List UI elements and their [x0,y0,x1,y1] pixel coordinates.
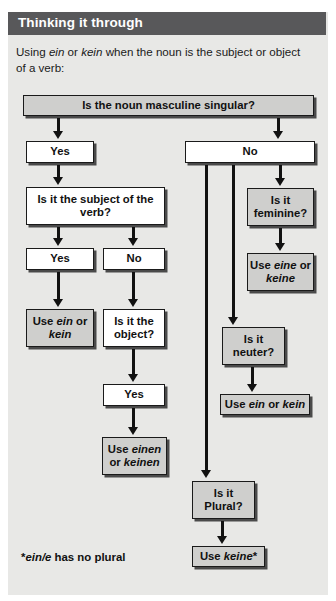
connector-yessubject-to-useein [57,272,60,302]
intro-text: Using ein or kein when the noun is the s… [16,44,306,75]
arrowhead-feminine-to-useeine [275,243,285,251]
arrowhead-no-to-feminine [275,178,285,186]
intro-part-2: or [64,45,81,58]
arrowhead-yes-to-subject [53,177,63,185]
node-use-eine-keine-label: Use eine or keine [248,259,313,286]
page-title: Thinking it through [18,15,143,30]
footnote-rest: has no plural [51,551,125,563]
arrowhead-no-to-plural [201,470,211,478]
arrowhead-subject-to-no [128,238,138,246]
node-no-subject: No [103,248,165,270]
intro-part-1: Using [16,45,49,58]
node-neuter-question-label: Is it neuter? [223,333,284,360]
node-use-einen-keinen: Use einen or keinen [102,437,167,475]
node-use-einen-keinen-label: Use einen or keinen [103,443,166,470]
node-object-question: Is it the object? [103,309,165,347]
footnote-em: ein/e [25,551,51,563]
node-yes-masculine-label: Yes [48,145,71,159]
node-root-question: Is the noun masculine singular? [23,95,314,116]
node-plural-question-label: Is it Plural? [193,487,254,514]
arrowhead-root-to-no [273,131,283,139]
connector-object-to-yes [132,349,135,377]
node-object-question-label: Is it the object? [104,315,164,342]
node-yes-object-label: Yes [122,388,145,402]
node-neuter-question: Is it neuter? [222,327,285,365]
connector-no-to-neuter [232,165,235,320]
arrowhead-yessubject-to-useein [53,299,63,307]
connector-no-to-plural [205,165,208,474]
node-subject-question: Is it the subject of the verb? [26,187,165,225]
arrowhead-neuter-to-useein [247,384,257,392]
arrowhead-object-to-yes [128,374,138,382]
node-no-masculine-label: No [240,145,259,159]
node-no-subject-label: No [124,252,143,266]
arrowhead-nosubject-to-object [128,299,138,307]
thinking-it-through-panel: Thinking it through Using ein or kein wh… [0,0,336,601]
node-yes-subject: Yes [26,248,94,270]
node-root-question-label: Is the noun masculine singular? [80,99,257,113]
arrowhead-subject-to-yes [53,238,63,246]
node-yes-masculine: Yes [26,141,94,163]
node-no-masculine: No [185,141,315,163]
arrowhead-plural-to-usekeine [217,536,227,544]
footnote: *ein/e has no plural [21,551,125,563]
node-use-keine: Use keine* [192,546,265,567]
arrowhead-root-to-yes [53,131,63,139]
node-feminine-question: Is it feminine? [247,188,314,226]
node-use-ein-kein-neuter-label: Use ein or kein [223,398,307,412]
node-subject-question-label: Is it the subject of the verb? [27,193,164,220]
arrowhead-no-to-neuter [228,317,238,325]
node-yes-object: Yes [103,384,165,406]
node-feminine-question-label: Is it feminine? [248,194,313,221]
node-use-ein-kein-subject: Use ein or kein [26,309,94,347]
connector-nosubject-to-object [132,272,135,302]
node-yes-subject-label: Yes [48,252,71,266]
node-plural-question: Is it Plural? [192,481,255,519]
arrowhead-yesobject-to-useeinen [128,427,138,435]
node-use-keine-label: Use keine* [198,550,259,564]
node-use-ein-kein-neuter: Use ein or kein [220,394,310,415]
intro-em-kein: kein [81,45,102,58]
intro-em-ein: ein [49,45,64,58]
node-use-ein-kein-subject-label: Use ein or kein [27,315,93,342]
node-use-eine-keine: Use eine or keine [247,253,314,291]
